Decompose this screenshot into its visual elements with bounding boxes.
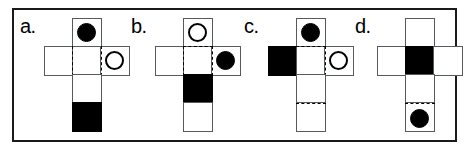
face-top-b [183, 18, 213, 48]
option-label-b: b. [131, 16, 147, 36]
open-circle-marker [329, 51, 348, 70]
cube-net-a [44, 18, 128, 138]
option-label-a: a. [20, 16, 36, 36]
face-center-a [72, 46, 102, 76]
face-bottom2-c [296, 102, 326, 132]
option-label-c: c. [244, 16, 259, 36]
face-right-b [211, 46, 241, 76]
cube-net-d [377, 18, 461, 138]
face-top-a [72, 18, 102, 48]
cube-net-b [155, 18, 239, 138]
face-left-c [268, 46, 298, 76]
option-panel-c[interactable]: c. [240, 10, 350, 140]
fold-line-mid-strip-d [405, 103, 435, 104]
fold-line-left-b [183, 46, 184, 76]
open-circle-marker [188, 23, 207, 42]
figure-frame: a. b. [12, 8, 457, 142]
fold-line-right-c [325, 46, 326, 76]
face-bottom1-c [296, 74, 326, 104]
face-bottom1-d [405, 74, 435, 104]
option-panel-d[interactable]: d. [351, 10, 461, 140]
face-right-a [100, 46, 130, 76]
face-bottom2-a [72, 102, 102, 132]
fold-line-right-a [101, 46, 102, 76]
option-label-d: d. [355, 16, 371, 36]
face-left-d [377, 46, 407, 76]
face-bottom2-b [183, 102, 213, 132]
option-panel-a[interactable]: a. [16, 10, 126, 140]
face-bottom2-d [405, 102, 435, 132]
face-bottom1-b [183, 74, 213, 104]
option-panel-b[interactable]: b. [127, 10, 237, 140]
face-center-b [183, 46, 213, 76]
open-circle-marker [105, 51, 124, 70]
fold-line-top-b [183, 46, 213, 47]
face-top-c [296, 18, 326, 48]
face-left-a [44, 46, 74, 76]
fold-line-mid-strip-c [296, 103, 326, 104]
filled-circle-marker [216, 51, 235, 70]
face-center-c [296, 46, 326, 76]
face-right-c [324, 46, 354, 76]
filled-circle-marker [301, 23, 320, 42]
face-left-b [155, 46, 185, 76]
face-center-d [405, 46, 435, 76]
fold-line-left-a [72, 46, 73, 76]
face-right-d [433, 46, 463, 76]
face-top-d [405, 18, 435, 48]
filled-circle-marker [77, 23, 96, 42]
cube-net-c [268, 18, 352, 138]
fold-line-right-b [212, 46, 213, 76]
filled-circle-marker [410, 109, 429, 128]
face-bottom1-a [72, 74, 102, 104]
fold-line-top-c [296, 46, 326, 47]
